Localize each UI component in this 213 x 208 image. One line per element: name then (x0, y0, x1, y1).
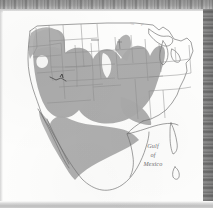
scan-edge-left (0, 9, 3, 201)
scanner-noise-band-bottom (0, 201, 213, 208)
scanner-noise-band-top (0, 0, 213, 9)
faint-annotation-1: % (130, 21, 134, 26)
distribution-map: % p Gulf of Mexico (3, 11, 203, 199)
gulf-label-line-1: Gulf (147, 142, 160, 149)
scanner-noise-band-right (203, 9, 213, 201)
scanned-page: % p Gulf of Mexico (0, 0, 213, 208)
map-svg: % p Gulf of Mexico (3, 11, 203, 199)
gulf-label-line-3: Mexico (143, 160, 163, 167)
